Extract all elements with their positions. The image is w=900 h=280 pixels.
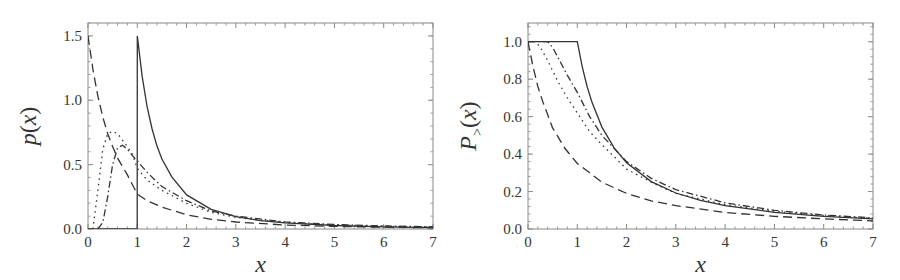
y-tick-label: 0.5 [63, 157, 82, 173]
x-tick-label: 2 [183, 234, 191, 250]
y-axis-label: p(x) [15, 107, 41, 148]
x-tick-label: 0 [84, 234, 92, 250]
y-tick-label: 0.8 [503, 71, 522, 87]
x-tick-label: 4 [281, 234, 289, 250]
series-dotted [93, 131, 433, 229]
x-tick-label: 4 [721, 234, 729, 250]
y-tick-label: 1.5 [63, 28, 82, 44]
y-tick-label: 0.6 [503, 109, 522, 125]
series-solid [88, 36, 433, 229]
series-dash-dot [98, 145, 433, 229]
x-tick-label: 3 [672, 234, 680, 250]
series-solid [528, 42, 873, 219]
series-dotted [528, 42, 873, 219]
x-tick-label: 6 [820, 234, 828, 250]
y-tick-label: 0.0 [503, 221, 522, 237]
y-tick-label: 0.2 [503, 184, 522, 200]
x-tick-label: 6 [380, 234, 388, 250]
series-dashed [528, 42, 873, 221]
x-tick-label: 1 [134, 234, 142, 250]
x-tick-label: 5 [331, 234, 339, 250]
x-tick-label: 3 [232, 234, 240, 250]
y-tick-label: 1.0 [503, 34, 522, 50]
x-tick-label: 7 [429, 234, 437, 250]
y-axis-label: P>(x) [455, 101, 485, 151]
left-panel-pdf: 012345670.00.51.01.5xp(x) [15, 23, 437, 277]
x-tick-label: 0 [524, 234, 532, 250]
y-tick-label: 0.0 [63, 221, 82, 237]
x-axis-label: x [254, 251, 266, 277]
y-tick-label: 1.0 [63, 92, 82, 108]
right-panel-ccdf: 012345670.00.20.40.60.81.0xP>(x) [455, 23, 877, 277]
x-tick-label: 2 [623, 234, 631, 250]
x-axis-label: x [694, 251, 706, 277]
y-tick-label: 0.4 [503, 146, 522, 162]
series-dashed [88, 36, 433, 228]
x-tick-label: 5 [771, 234, 779, 250]
x-tick-label: 7 [869, 234, 877, 250]
figure: 012345670.00.51.01.5xp(x) 012345670.00.2… [0, 0, 900, 280]
series-dash-dot [528, 42, 873, 218]
x-tick-label: 1 [574, 234, 582, 250]
